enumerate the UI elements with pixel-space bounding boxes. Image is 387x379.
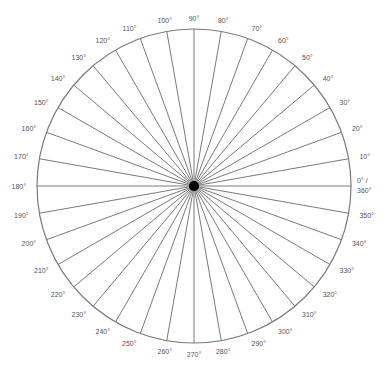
angle-label-120: 120° bbox=[96, 37, 111, 44]
angle-label-310: 310° bbox=[302, 311, 317, 318]
angle-label-280: 280° bbox=[216, 348, 231, 355]
angle-label-150: 150° bbox=[34, 99, 49, 106]
angle-label-270: 270° bbox=[187, 351, 202, 358]
angle-label-20: 20° bbox=[352, 125, 363, 132]
angle-label-0: 0° / bbox=[357, 177, 368, 184]
polar-angle-diagram: 0° /360°10°20°30°40°50°60°70°80°90°100°1… bbox=[0, 0, 387, 379]
angle-label-180: 180° bbox=[12, 183, 27, 190]
angle-label-210: 210° bbox=[34, 267, 49, 274]
angle-label-200: 200° bbox=[22, 240, 37, 247]
angle-label-70: 70° bbox=[252, 25, 263, 32]
angle-label-130: 130° bbox=[72, 54, 87, 61]
angle-label-10: 10° bbox=[359, 153, 370, 160]
angle-label-330: 330° bbox=[340, 267, 355, 274]
angle-label-140: 140° bbox=[51, 75, 66, 82]
angle-label-90: 90° bbox=[189, 15, 200, 22]
angle-label-40: 40° bbox=[323, 75, 334, 82]
angle-label-360: 360° bbox=[357, 187, 372, 194]
angle-label-170: 170° bbox=[14, 153, 29, 160]
angle-label-300: 300° bbox=[278, 328, 293, 335]
angle-label-230: 230° bbox=[72, 311, 87, 318]
angle-label-350: 350° bbox=[359, 212, 374, 219]
angle-label-190: 190° bbox=[14, 212, 29, 219]
angle-label-30: 30° bbox=[340, 99, 351, 106]
angle-label-260: 260° bbox=[158, 348, 173, 355]
angle-label-60: 60° bbox=[278, 37, 289, 44]
angle-label-340: 340° bbox=[352, 240, 367, 247]
center-dot bbox=[189, 181, 199, 191]
angle-label-50: 50° bbox=[302, 54, 313, 61]
angle-label-290: 290° bbox=[252, 340, 267, 347]
angle-label-100: 100° bbox=[158, 17, 173, 24]
angle-label-250: 250° bbox=[122, 340, 137, 347]
angle-label-160: 160° bbox=[22, 125, 37, 132]
angle-label-80: 80° bbox=[218, 17, 229, 24]
angle-label-240: 240° bbox=[96, 328, 111, 335]
angle-label-220: 220° bbox=[51, 291, 66, 298]
angle-label-110: 110° bbox=[123, 25, 137, 32]
angle-label-320: 320° bbox=[323, 291, 338, 298]
